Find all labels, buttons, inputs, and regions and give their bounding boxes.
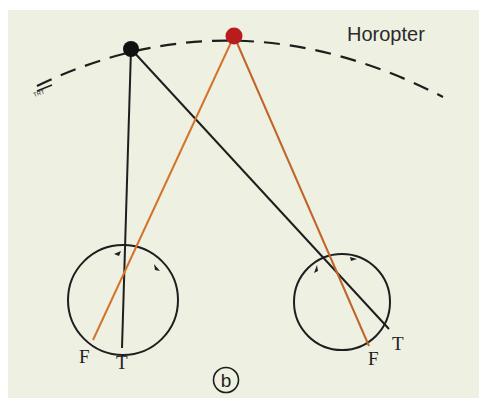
arc-mark-label: TRT bbox=[32, 89, 45, 98]
red-line-right-eye bbox=[234, 36, 369, 346]
right-eye-target-label: T bbox=[392, 333, 404, 354]
horopter-diagram: TRT Horopter F T F T b bbox=[0, 0, 484, 412]
fixation-dot bbox=[226, 28, 243, 45]
left-eye-target-label: T bbox=[116, 352, 128, 373]
left-eye-arrow-top bbox=[114, 251, 121, 256]
panel-label: b bbox=[221, 370, 232, 391]
black-line-left-eye bbox=[122, 49, 131, 348]
right-eye-arrow-left bbox=[314, 265, 318, 273]
red-line-left-eye bbox=[93, 36, 234, 340]
target-dot bbox=[123, 41, 139, 57]
horopter-label: Horopter bbox=[347, 23, 425, 45]
right-eye bbox=[294, 254, 390, 350]
right-eye-arrow-top bbox=[350, 257, 357, 261]
left-eye-fovea-label: F bbox=[79, 346, 90, 367]
black-line-right-eye bbox=[131, 49, 389, 329]
left-eye-arrow-right bbox=[154, 264, 160, 271]
right-eye-fovea-label: F bbox=[368, 348, 379, 369]
